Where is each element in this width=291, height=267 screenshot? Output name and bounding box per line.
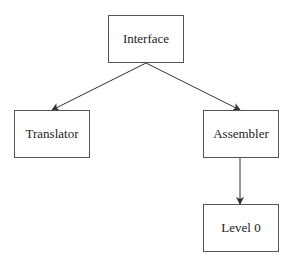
edge-interface-translator	[52, 63, 146, 110]
node-interface: Interface	[108, 15, 184, 63]
node-level0: Level 0	[203, 204, 279, 252]
diagram-canvas: Interface Translator Assembler Level 0	[0, 0, 291, 267]
node-label: Assembler	[213, 126, 269, 142]
node-assembler: Assembler	[203, 110, 279, 158]
edge-interface-assembler	[146, 63, 240, 110]
node-label: Translator	[26, 126, 79, 142]
node-label: Interface	[123, 31, 169, 47]
node-translator: Translator	[14, 110, 90, 158]
node-label: Level 0	[221, 220, 260, 236]
